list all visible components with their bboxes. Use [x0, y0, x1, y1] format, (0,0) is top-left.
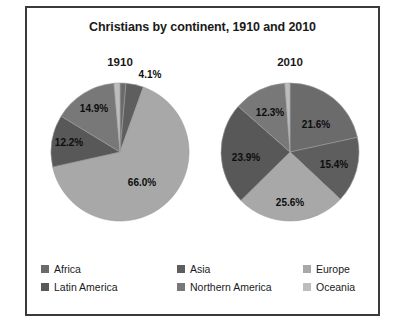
slice-label-asia-1910: 4.1% — [139, 69, 162, 80]
pie-panel-2010: 2010 21.6% 15.4% 25.6% 23.9% 12.3% — [205, 56, 375, 256]
pie-svg-1910 — [50, 82, 190, 222]
legend-item-europe[interactable]: Europe — [303, 263, 367, 275]
panel-year-label: 2010 — [205, 56, 375, 68]
chart-frame: Christians by continent, 1910 and 2010 1… — [25, 6, 380, 316]
legend-item-label: Africa — [54, 263, 81, 275]
legend-item-northern-america[interactable]: Northern America — [177, 281, 303, 293]
legend-item-asia[interactable]: Asia — [177, 263, 303, 275]
legend-item-label: Latin America — [54, 281, 118, 293]
slice-label-northern-america-1910: 14.9% — [80, 103, 108, 114]
slice-label-latin-america-2010: 23.9% — [232, 152, 260, 163]
legend-item-oceania[interactable]: Oceania — [303, 281, 367, 293]
slice-label-latin-america-1910: 12.2% — [55, 137, 83, 148]
legend-item-latin-america[interactable]: Latin America — [41, 281, 177, 293]
slice-label-europe-2010: 25.6% — [276, 197, 304, 208]
legend-item-label: Northern America — [190, 281, 272, 293]
legend-swatch-icon — [177, 265, 185, 273]
legend-item-africa[interactable]: Africa — [41, 263, 177, 275]
chart-legend: Africa Asia Europe Latin America Norther… — [41, 260, 367, 296]
legend-swatch-icon — [41, 265, 49, 273]
pie-panel-1910: 1910 4.1% 14.9% 12.2% 66.0% — [35, 56, 205, 256]
legend-item-label: Asia — [190, 263, 210, 275]
slice-label-northern-america-2010: 12.3% — [256, 107, 284, 118]
legend-swatch-icon — [303, 265, 311, 273]
panel-year-label: 1910 — [35, 56, 205, 68]
legend-swatch-icon — [177, 283, 185, 291]
chart-title: Christians by continent, 1910 and 2010 — [27, 20, 378, 34]
legend-swatch-icon — [41, 283, 49, 291]
slice-label-asia-2010: 15.4% — [320, 159, 348, 170]
legend-item-label: Europe — [316, 263, 350, 275]
legend-item-label: Oceania — [316, 281, 355, 293]
slice-label-africa-2010: 21.6% — [302, 119, 330, 130]
pie-chart-1910: 4.1% 14.9% 12.2% 66.0% — [50, 82, 190, 222]
slice-label-europe-1910: 66.0% — [128, 177, 156, 188]
pie-chart-2010: 21.6% 15.4% 25.6% 23.9% 12.3% — [220, 82, 360, 222]
legend-swatch-icon — [303, 283, 311, 291]
